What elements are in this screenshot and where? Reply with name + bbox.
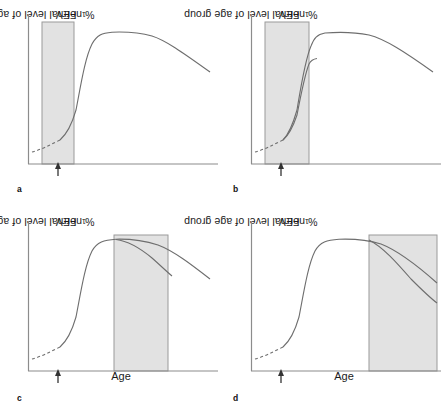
plot-area-d	[251, 221, 437, 371]
plot-area-c	[28, 221, 214, 371]
x-axis-label-c: Age	[28, 370, 214, 382]
curve-c-primary-dashed	[32, 347, 60, 359]
panel-b: FEV1 % normal level of age group b	[223, 0, 446, 207]
panel-a: FEV1 % normal level of age group a	[0, 0, 223, 207]
plot-area-a	[28, 14, 214, 164]
panel-c: FEV1 % normal level of age group Age c	[0, 207, 223, 414]
x-axis-label-d: Age	[251, 370, 437, 382]
y-axis-label-b: FEV1 % normal level of age group	[231, 0, 253, 175]
y-axis-label-d: FEV1 % normal level of age group	[231, 207, 253, 382]
shaded-region-a	[42, 22, 74, 164]
panel-d: FEV1 % normal level of age group Age d	[223, 207, 446, 414]
curve-d-primary-dashed	[255, 347, 283, 359]
shaded-region-b	[265, 22, 309, 164]
y-axis-label-c: FEV1 % normal level of age group	[8, 207, 30, 382]
shaded-region-c	[114, 235, 168, 371]
y-axis-label-a: FEV1 % normal level of age group	[8, 0, 30, 175]
panel-letter-d: d	[233, 393, 238, 403]
panel-letter-c: c	[17, 393, 22, 403]
curve-a-primary	[60, 32, 210, 140]
figure-fev1-trajectories: FEV1 % normal level of age group a FEV1 …	[0, 0, 446, 415]
plot-area-b	[251, 14, 437, 164]
